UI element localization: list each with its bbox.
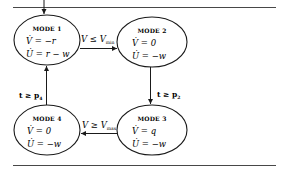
mode-4-node: MODE 4 V̇ = 0 U̇ = −w xyxy=(14,105,80,155)
transition-1-to-2: V ≤ Vmin xyxy=(80,34,117,49)
mode-1-eq-v: V̇ = −r xyxy=(26,35,57,46)
mode-4-eq-u: U̇ = −w xyxy=(27,138,62,149)
mode-2-eq-u: U̇ = −w xyxy=(132,50,167,61)
transition-2-to-3: t ≥ p2 xyxy=(151,67,181,104)
mode-4-title: MODE 4 xyxy=(32,115,61,122)
mode-3-title: MODE 3 xyxy=(137,115,166,122)
transition-3-to-4: V ≥ Vmax xyxy=(81,120,117,134)
mode-4-eq-v: V̇ = 0 xyxy=(27,125,52,136)
mode-2-node: MODE 2 V̇ = 0 U̇ = −w xyxy=(117,17,187,67)
mode-3-eq-u: U̇ = −w xyxy=(132,138,167,149)
mode-1-eq-u: U̇ = r − w xyxy=(26,48,70,59)
transition-4-to-1: t ≥ p4 xyxy=(19,66,47,105)
state-diagram: MODE 1 V̇ = −r U̇ = r − w MODE 2 V̇ = 0 … xyxy=(0,0,281,173)
transition-3-to-4-label: V ≥ Vmax xyxy=(82,120,117,131)
mode-3-eq-v: V̇ = q xyxy=(132,125,157,136)
transition-2-to-3-label: t ≥ p2 xyxy=(157,90,180,100)
mode-2-title: MODE 2 xyxy=(137,27,166,34)
mode-1-title: MODE 1 xyxy=(32,25,61,32)
transition-4-to-1-label: t ≥ p4 xyxy=(19,91,42,101)
mode-1-node: MODE 1 V̇ = −r U̇ = r − w xyxy=(14,15,80,65)
mode-3-node: MODE 3 V̇ = q U̇ = −w xyxy=(117,105,187,155)
transition-1-to-2-label: V ≤ Vmin xyxy=(81,34,115,45)
mode-2-eq-v: V̇ = 0 xyxy=(132,37,157,48)
